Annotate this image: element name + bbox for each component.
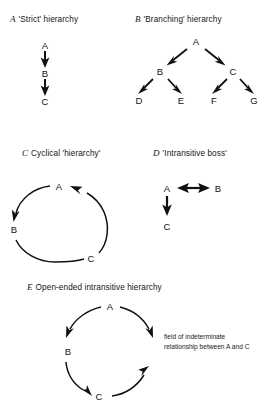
panel-c-tag: C: [22, 148, 31, 158]
panel-b-arrow-a-to-c: [205, 49, 226, 66]
panel-d-arrow-a-b-double: [177, 183, 210, 193]
panel-c-node-c: C: [88, 253, 95, 264]
panel-e-title: EOpen-ended intransitive hierarchy: [27, 282, 162, 292]
panel-e-node-a: A: [107, 301, 113, 312]
panel-d-node-c: C: [164, 221, 171, 232]
panel-d-node-a: A: [164, 183, 170, 194]
panel-b-title: B'Branching' hierarchy: [135, 14, 222, 24]
panel-b-arrow-c-to-g: [240, 79, 254, 94]
panel-d-title-text: 'Intransitive boss': [163, 149, 227, 158]
panel-e-node-c: C: [96, 391, 103, 402]
panel-c-node-a: A: [56, 181, 62, 192]
panel-c-arrow-b-to-c: [16, 240, 84, 262]
panel-a-tag: A: [10, 14, 19, 24]
panel-e-title-text: Open-ended intransitive hierarchy: [36, 283, 162, 292]
panel-e-arrow-a-to-open: [120, 307, 153, 338]
panel-b-node-g: G: [250, 95, 257, 106]
panel-a-node-a: A: [42, 40, 48, 51]
panel-d-node-b: B: [215, 183, 221, 194]
panel-b-node-f: F: [211, 95, 217, 106]
panel-a-arrow-a-to-b: [41, 51, 50, 68]
panel-a-title: A'Strict' hierarchy: [10, 14, 78, 24]
panel-c-arrow-a-to-b: [12, 186, 50, 222]
panel-d-title: D'Intransitive boss': [153, 148, 227, 158]
panel-c-arrow-c-to-a: [70, 186, 107, 253]
panel-e-node-b: B: [65, 346, 71, 357]
panel-c-title: CCyclical 'hierarchy': [22, 148, 100, 158]
panel-c-title-text: Cyclical 'hierarchy': [31, 149, 100, 158]
panel-b-node-b: B: [157, 66, 163, 77]
panel-a-title-text: 'Strict' hierarchy: [19, 15, 79, 24]
panel-a-node-c: C: [42, 96, 49, 107]
panel-a-arrow-b-to-c: [41, 79, 50, 96]
hierarchy-diagram-figure: A'Strict' hierarchy A B C B'Branching' h…: [0, 0, 265, 417]
panel-b-arrow-b-to-e: [168, 79, 182, 94]
panel-d-arrow-a-to-c: [162, 196, 172, 216]
panel-e-arrow-a-to-b: [66, 307, 101, 338]
panel-b-arrow-b-to-d: [138, 79, 153, 94]
panel-a-node-b: B: [42, 68, 48, 79]
panel-b-title-text: 'Branching' hierarchy: [144, 15, 222, 24]
panel-b-arrow-c-to-f: [212, 79, 227, 94]
panel-b-node-d: D: [136, 95, 143, 106]
panel-c-node-b: B: [11, 224, 17, 235]
panel-b-node-c: C: [230, 66, 237, 77]
panel-b-node-a: A: [193, 36, 199, 47]
panel-b-tag: B: [135, 14, 144, 24]
panel-e-caption: field of indeterminate relationship betw…: [164, 332, 250, 351]
panel-e-arrow-b-to-c: [66, 362, 92, 396]
panel-b-arrow-a-to-b: [167, 49, 188, 66]
panel-d-tag: D: [153, 148, 163, 158]
diagram-arrows-layer: [0, 0, 265, 417]
panel-b-node-e: E: [178, 95, 184, 106]
panel-e-tag: E: [27, 282, 36, 292]
panel-e-arrow-c-to-open: [112, 366, 149, 396]
